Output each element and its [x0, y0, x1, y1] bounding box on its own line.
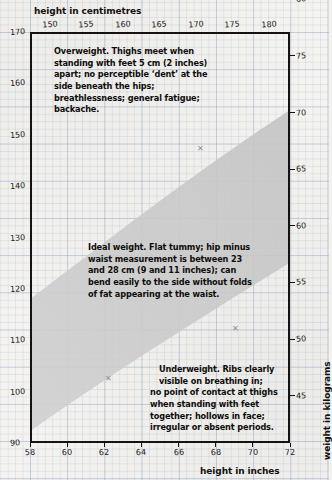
tick-mark	[215, 443, 216, 447]
tick-left-90: 90	[10, 438, 21, 448]
tick-left-150: 150	[10, 130, 26, 140]
tick-mark	[290, 443, 291, 447]
tick-mark	[290, 225, 295, 226]
pencil-mark: ✕	[105, 374, 112, 383]
tick-top-180: 180	[261, 19, 277, 29]
axis-title-kilograms: weight in kilograms	[322, 361, 332, 460]
tick-bottom-60: 60	[62, 448, 73, 458]
tick-mark	[290, 112, 295, 113]
axis-title-centimetres: height in centimetres	[34, 6, 141, 16]
tick-top-165: 165	[151, 19, 167, 29]
tick-top-160: 160	[115, 19, 131, 29]
note-underweight-line1: Underweight. Ribs clearly	[150, 364, 285, 376]
note-underweight-line2: visible on breathing in;	[150, 376, 285, 388]
tick-top-170: 170	[188, 19, 204, 29]
tick-bottom-66: 66	[173, 448, 184, 458]
tick-mark	[290, 339, 295, 340]
tick-right-70: 70	[296, 108, 307, 118]
tick-left-100: 100	[10, 387, 26, 397]
tick-right-55: 55	[296, 278, 307, 288]
tick-mark	[290, 169, 295, 170]
tick-mark	[252, 443, 253, 447]
tick-top-150: 150	[42, 19, 58, 29]
tick-left-140: 140	[10, 181, 26, 191]
tick-mark	[141, 443, 142, 447]
tick-mark	[290, 282, 295, 283]
note-underweight: Underweight. Ribs clearly visible on bre…	[150, 364, 285, 434]
tick-mark	[104, 443, 105, 447]
tick-mark	[30, 443, 31, 447]
tick-mark	[290, 55, 295, 56]
tick-top-175: 175	[224, 19, 240, 29]
tick-right-45: 45	[296, 391, 307, 401]
tick-bottom-62: 62	[99, 448, 110, 458]
tick-left-120: 120	[10, 284, 26, 294]
tick-bottom-58: 58	[25, 448, 36, 458]
axis-title-inches: height in inches	[200, 466, 280, 476]
tick-right-75: 75	[296, 51, 307, 61]
tick-bottom-64: 64	[136, 448, 147, 458]
tick-mark	[67, 443, 68, 447]
tick-left-170: 170	[10, 27, 26, 37]
tick-bottom-68: 68	[210, 448, 221, 458]
tick-right-50: 50	[296, 334, 307, 344]
tick-left-160: 160	[10, 78, 26, 88]
note-underweight-rest: no point of contact at thighs when stand…	[150, 387, 278, 432]
tick-left-110: 110	[10, 335, 26, 345]
note-overweight: Overweight. Thighs meet when standing wi…	[54, 46, 224, 116]
tick-right-60: 60	[296, 221, 307, 231]
note-ideal-weight: Ideal weight. Flat tummy; hip minus wais…	[88, 242, 256, 300]
pencil-mark: ✕	[197, 144, 204, 153]
pencil-mark: ✕	[232, 324, 239, 333]
tick-mark	[290, 395, 295, 396]
tick-left-130: 130	[10, 232, 26, 242]
tick-bottom-72: 72	[285, 448, 296, 458]
tick-bottom-70: 70	[247, 448, 258, 458]
tick-top-155: 155	[78, 19, 94, 29]
chart-plot-area: ✕ ✕ ✕ Overweight. Thighs meet when stand…	[30, 32, 290, 443]
tick-mark	[178, 443, 179, 447]
tick-right-65: 65	[296, 164, 307, 174]
